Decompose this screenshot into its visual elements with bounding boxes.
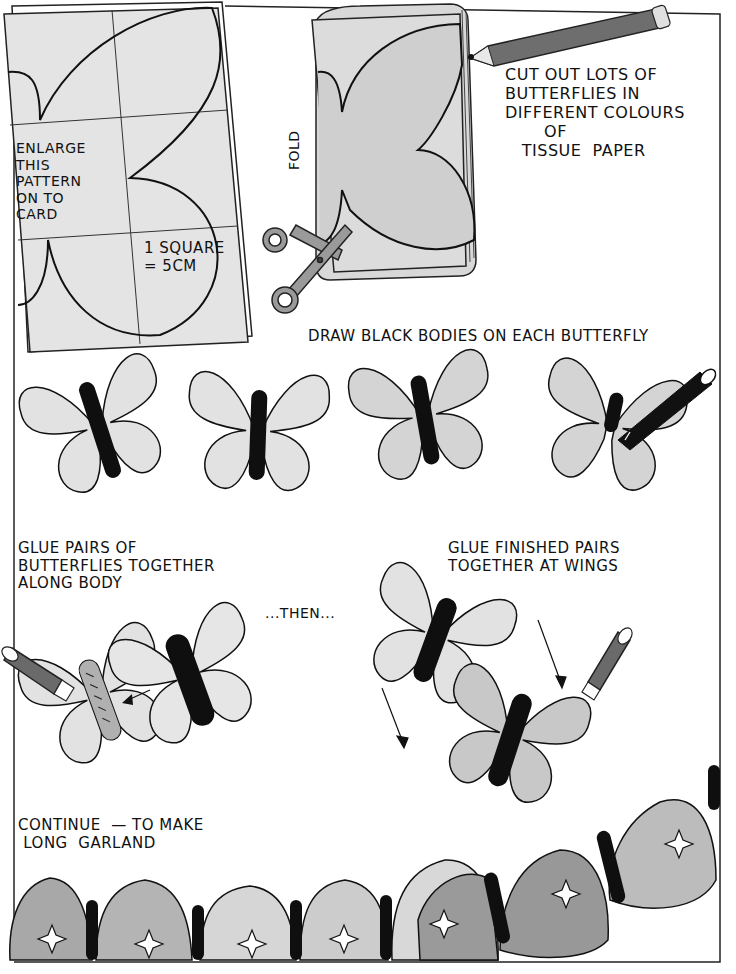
butterfly-icon: [14, 350, 183, 504]
continue-instruction: CONTINUE — TO MAKE LONG GARLAND: [18, 817, 204, 852]
butterfly-row: [14, 347, 718, 503]
fold-label: FOLD: [286, 130, 303, 170]
draw-instruction: DRAW BLACK BODIES ON EACH BUTTERFLY: [308, 328, 649, 346]
glue-pairs-instruction: GLUE PAIRS OF BUTTERFLIES TOGETHER ALONG…: [18, 540, 215, 593]
glue-wings-illustration: [351, 558, 636, 813]
scale-note: 1 SQUARE = 5CM: [144, 240, 225, 275]
then-label: ...THEN...: [265, 605, 335, 622]
glue-pairs-illustration: [0, 598, 274, 775]
glue-wings-instruction: GLUE FINISHED PAIRS TOGETHER AT WINGS: [448, 540, 620, 575]
arrow-icon: [538, 620, 566, 688]
pattern-instruction: ENLARGE THIS PATTERN ON TO CARD: [16, 140, 86, 223]
garland: [10, 765, 720, 960]
arrow-icon: [382, 688, 408, 748]
instruction-page: ENLARGE THIS PATTERN ON TO CARD 1 SQUARE…: [0, 0, 736, 974]
glue-stick-icon: [582, 625, 635, 700]
cut-instruction: CUT OUT LOTS OF BUTTERFLIES IN DIFFERENT…: [505, 66, 685, 160]
butterfly-icon: [530, 355, 691, 498]
butterfly-icon: [345, 347, 503, 486]
butterfly-icon: [186, 371, 330, 492]
pencil-icon: [468, 4, 671, 66]
